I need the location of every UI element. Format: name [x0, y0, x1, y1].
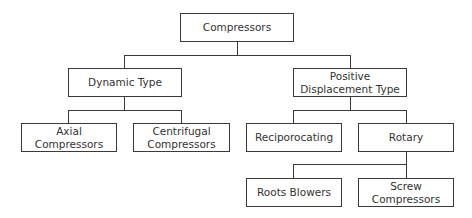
compressor-classification-diagram: Compressors Dynamic Type Positive Displa…: [0, 0, 472, 218]
node-roots-blowers: Roots Blowers: [246, 178, 342, 207]
connector: [181, 110, 182, 123]
connector: [406, 110, 407, 123]
node-reciprocating: Reciporocating: [246, 123, 342, 152]
connector: [293, 164, 294, 178]
connector: [68, 110, 182, 111]
node-centrifugal-compressors: Centrifugal Compressors: [133, 123, 230, 152]
connector: [293, 110, 407, 111]
connector: [124, 96, 125, 110]
connector: [293, 164, 407, 165]
connector: [237, 41, 238, 55]
connector: [68, 110, 69, 123]
connector: [124, 55, 351, 56]
connector: [293, 110, 294, 123]
connector: [406, 164, 407, 178]
connector: [406, 151, 407, 164]
connector: [350, 96, 351, 110]
connector: [124, 55, 125, 68]
node-positive-displacement-type: Positive Displacement Type: [293, 68, 407, 97]
node-compressors: Compressors: [180, 13, 294, 42]
connector: [350, 55, 351, 68]
node-dynamic-type: Dynamic Type: [68, 68, 182, 97]
node-screw-compressors: Screw Compressors: [358, 178, 454, 207]
node-axial-compressors: Axial Compressors: [21, 123, 117, 152]
node-rotary: Rotary: [358, 123, 454, 152]
